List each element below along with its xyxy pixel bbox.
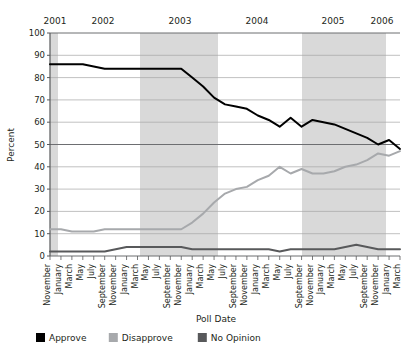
x-tick-label-25: January — [316, 264, 325, 296]
x-tick-label-17: September — [229, 263, 238, 308]
legend-label-approve: Approve — [49, 333, 87, 343]
x-tick-label-31: January — [382, 264, 391, 296]
x-tick-label-11: September — [163, 263, 172, 308]
chart-canvas: 0102030405060708090100 20012002200320042… — [0, 0, 412, 352]
x-tick-label-22: July — [284, 264, 293, 280]
x-tick-label-5: September — [98, 263, 107, 308]
x-tick-label-27: May — [338, 264, 347, 281]
x-tick-label-15: May — [207, 264, 216, 281]
legend-swatch-no-opinion — [198, 333, 207, 342]
y-tick-label-90: 90 — [34, 50, 45, 60]
y-tick-label-20: 20 — [34, 206, 45, 216]
x-tick-label-3: May — [76, 264, 85, 281]
year-label-2004: 2004 — [246, 16, 269, 26]
x-tick-label-14: March — [196, 264, 205, 288]
year-label-2002: 2002 — [92, 16, 115, 26]
year-label-2006: 2006 — [371, 16, 394, 26]
y-tick-label-100: 100 — [29, 28, 45, 38]
x-axis-title: Poll Date — [196, 314, 236, 324]
x-tick-label-21: May — [273, 264, 282, 281]
x-tick-label-13: January — [185, 264, 194, 296]
y-tick-label-0: 0 — [40, 251, 45, 261]
x-tick-label-2: March — [65, 264, 74, 288]
y-axis-tick-labels: 0102030405060708090100 — [29, 28, 50, 261]
x-tick-label-10: July — [152, 264, 161, 280]
y-axis-title: Percent — [6, 128, 16, 162]
x-tick-label-8: March — [131, 264, 140, 288]
x-tick-label-4: July — [87, 264, 96, 280]
x-tick-label-29: September — [360, 263, 369, 308]
poll-approval-chart: 0102030405060708090100 20012002200320042… — [0, 0, 412, 352]
y-tick-label-50: 50 — [34, 140, 45, 150]
x-tick-label-0: November — [43, 263, 52, 305]
y-tick-label-80: 80 — [34, 73, 45, 83]
year-labels: 200120022003200420052006 — [44, 16, 394, 26]
chart-legend: ApproveDisapproveNo Opinion — [36, 333, 261, 343]
x-tick-label-1: January — [54, 264, 63, 296]
legend-label-disapprove: Disapprove — [122, 333, 173, 343]
year-label-2005: 2005 — [322, 16, 345, 26]
x-tick-label-16: July — [218, 264, 227, 280]
year-label-2003: 2003 — [169, 16, 192, 26]
x-tick-label-9: May — [141, 264, 150, 281]
legend-swatch-disapprove — [109, 333, 118, 342]
x-tick-label-23: September — [295, 263, 304, 308]
y-tick-label-70: 70 — [34, 95, 45, 105]
x-axis-ticks — [50, 256, 400, 260]
legend-swatch-approve — [36, 333, 45, 342]
x-tick-label-26: March — [327, 264, 336, 288]
x-tick-label-12: November — [174, 263, 183, 305]
year-label-2001: 2001 — [44, 16, 67, 26]
x-tick-label-6: November — [109, 263, 118, 305]
x-tick-label-18: November — [240, 263, 249, 305]
y-tick-label-60: 60 — [34, 117, 45, 127]
y-tick-label-30: 30 — [34, 184, 45, 194]
y-tick-label-10: 10 — [34, 229, 45, 239]
x-tick-label-28: July — [349, 264, 358, 280]
x-tick-label-7: January — [120, 264, 129, 296]
legend-label-no-opinion: No Opinion — [211, 333, 261, 343]
x-axis-tick-labels: NovemberJanuaryMarchMayJulySeptemberNove… — [43, 263, 402, 308]
x-tick-label-30: November — [371, 263, 380, 305]
y-tick-label-40: 40 — [34, 162, 45, 172]
x-tick-label-20: March — [262, 264, 271, 288]
x-tick-label-19: January — [251, 264, 260, 296]
x-tick-label-32: March — [393, 264, 402, 288]
x-tick-label-24: November — [306, 263, 315, 305]
